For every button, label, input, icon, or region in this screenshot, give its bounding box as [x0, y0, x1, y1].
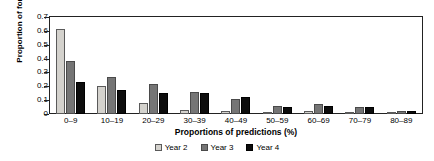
bar-group [381, 17, 422, 114]
bar-group [50, 17, 91, 114]
legend-swatch [201, 144, 208, 151]
y-tick-mark [44, 31, 49, 32]
legend-label: Year 2 [165, 143, 188, 152]
y-axis-tick-labels: 00.10.20.30.40.50.60.7 [24, 10, 48, 120]
x-tick-label: 20–29 [133, 115, 174, 127]
bar-group [298, 17, 339, 114]
x-tick-label: 70–79 [339, 115, 380, 127]
x-axis-tick-labels: 0–910–1920–2930–3940–4950–5960–6970–7980… [50, 115, 422, 127]
legend-swatch [155, 144, 162, 151]
bar [221, 111, 230, 114]
bar [407, 111, 416, 114]
x-tick-label: 80–89 [381, 115, 422, 127]
x-axis-title: Proportions of predictions (%) [49, 127, 423, 137]
legend-item: Year 2 [155, 143, 188, 152]
legend: Year 2Year 3Year 4 [0, 143, 434, 152]
bar-group [215, 17, 256, 114]
bar [324, 106, 333, 114]
bar [66, 61, 75, 114]
bar [387, 112, 396, 114]
bar-group [257, 17, 298, 114]
bar [241, 97, 250, 114]
bar [200, 93, 209, 114]
y-tick-mark [44, 17, 49, 18]
bar [263, 112, 272, 114]
y-tick-mark [44, 100, 49, 101]
bar-groups [50, 17, 422, 114]
bar [345, 112, 354, 114]
bar-chart: Proportion of forecasters 00.10.20.30.40… [0, 0, 434, 161]
x-tick-label: 10–19 [91, 115, 132, 127]
bar [149, 84, 158, 114]
bar [180, 110, 189, 114]
x-tick-label: 50–59 [257, 115, 298, 127]
bar [365, 107, 374, 114]
y-tick-mark [44, 45, 49, 46]
legend-label: Year 3 [211, 143, 234, 152]
legend-label: Year 4 [256, 143, 279, 152]
bar [107, 77, 116, 114]
x-tick-label: 40–49 [215, 115, 256, 127]
x-tick-label: 0–9 [50, 115, 91, 127]
bar [314, 104, 323, 114]
bar [159, 93, 168, 114]
bar [117, 90, 126, 114]
x-tick-label: 30–39 [174, 115, 215, 127]
bar [397, 111, 406, 114]
bar [190, 92, 199, 114]
bar [283, 107, 292, 114]
bar-group [91, 17, 132, 114]
legend-swatch [246, 144, 253, 151]
bar [231, 99, 240, 114]
x-tick-label: 60–69 [298, 115, 339, 127]
bar [139, 103, 148, 114]
bar [76, 82, 85, 114]
legend-item: Year 4 [246, 143, 279, 152]
bar [355, 107, 364, 114]
y-tick-mark [44, 72, 49, 73]
bar-group [339, 17, 380, 114]
y-tick-mark [44, 114, 49, 115]
bar [56, 29, 65, 114]
y-tick-mark [44, 59, 49, 60]
bar [97, 86, 106, 114]
legend-item: Year 3 [201, 143, 234, 152]
bar-group [174, 17, 215, 114]
y-tick-mark [44, 86, 49, 87]
bar [304, 111, 313, 114]
bar [273, 106, 282, 114]
bar-group [133, 17, 174, 114]
